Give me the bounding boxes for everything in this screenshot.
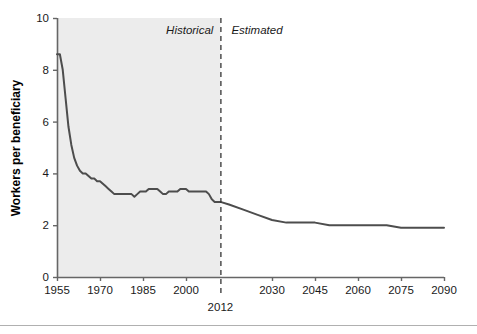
x-tick-label: 1970 <box>87 284 113 296</box>
y-tick-label: 8 <box>43 64 49 76</box>
chart-figure: 0246810 19551970198520002030204520602075… <box>0 0 477 334</box>
estimated-label: Estimated <box>231 24 283 36</box>
historical-label: Historical <box>166 24 214 36</box>
divider-year-label: 2012 <box>208 301 234 313</box>
x-tick-label: 1985 <box>130 284 156 296</box>
x-tick-label: 2090 <box>431 284 457 296</box>
y-tick-label: 10 <box>36 12 49 24</box>
y-tick-label: 2 <box>43 219 49 231</box>
y-tick-label: 0 <box>43 271 49 283</box>
historical-shaded-region <box>57 18 220 277</box>
y-tick-label: 6 <box>43 116 49 128</box>
y-axis-title: Workers per beneficiary <box>9 79 23 216</box>
x-tick-label: 2075 <box>388 284 414 296</box>
x-tick-label: 2060 <box>345 284 371 296</box>
workers-per-beneficiary-line-chart: 0246810 19551970198520002030204520602075… <box>0 0 477 334</box>
x-tick-label: 1955 <box>44 284 70 296</box>
x-tick-label: 2030 <box>259 284 285 296</box>
x-tick-label: 2045 <box>302 284 328 296</box>
x-tick-label: 2000 <box>173 284 199 296</box>
y-tick-label: 4 <box>43 167 50 179</box>
